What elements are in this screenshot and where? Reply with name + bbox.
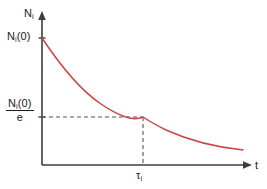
y-tick-label-initial: Ni(0) — [7, 31, 31, 42]
y-axis-title-main: N — [24, 7, 32, 19]
fraction-numerator: Ni(0) — [6, 98, 34, 111]
y-tick-label-over-e: Ni(0) e — [6, 98, 34, 123]
x-tick-label-tau: τi — [136, 170, 142, 181]
plot-canvas — [0, 0, 267, 189]
fraction-numerator-tail: (0) — [18, 97, 32, 109]
exponential-decay-figure: Ni Ni(0) Ni(0) e t τi — [0, 0, 267, 189]
y-tick-label-initial-main: N — [7, 30, 15, 42]
fraction-numerator-main: N — [8, 97, 16, 109]
y-tick-label-initial-tail: (0) — [17, 30, 31, 42]
x-axis-arrow-icon — [243, 161, 252, 169]
y-axis-title-subscript: i — [32, 12, 34, 21]
fraction-numerator-subscript: i — [16, 102, 18, 111]
y-axis-title: Ni — [24, 8, 34, 19]
y-tick-label-initial-subscript: i — [15, 35, 17, 44]
x-tick-label-tau-subscript: i — [140, 174, 142, 183]
y-axis-arrow-icon — [38, 11, 46, 20]
x-axis — [42, 161, 252, 169]
fraction-denominator: e — [6, 111, 34, 123]
y-axis — [38, 11, 46, 165]
x-axis-title: t — [255, 160, 258, 171]
